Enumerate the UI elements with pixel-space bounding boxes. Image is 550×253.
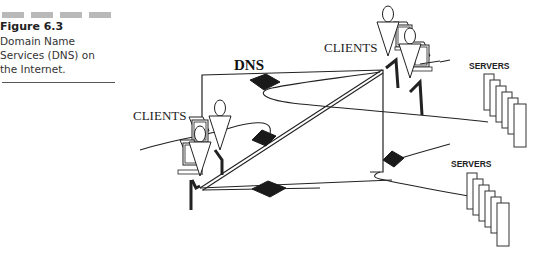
person-icon [209,100,231,150]
router-icon [383,151,404,167]
router-icon [252,130,276,146]
dns-diagram: DNS [0,0,550,253]
client-group-top [377,6,440,115]
clients-left-label: CLIENTS [133,108,186,123]
router-icon [252,181,286,197]
servers-bottom-label: SERVERS [451,159,492,169]
server-stack-icon [467,173,509,246]
server-stack-icon [484,74,526,147]
clients-top-label: CLIENTS [324,40,377,55]
dns-label: DNS [234,57,264,73]
servers-top-label: SERVERS [469,61,510,71]
